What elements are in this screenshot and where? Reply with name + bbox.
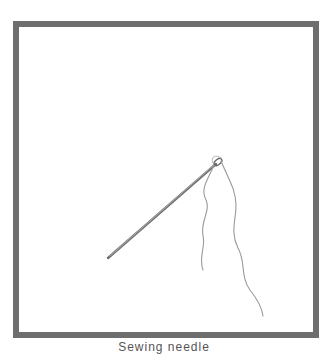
needle-icon [108,157,223,258]
image-caption: Sewing needle [0,340,328,354]
thread-long [221,161,263,316]
thread-short [201,165,214,270]
